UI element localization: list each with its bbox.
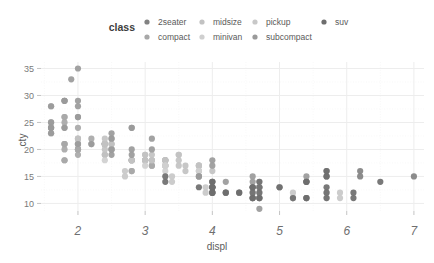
y-tick-label: 35 [24, 64, 34, 74]
scatter-point [350, 195, 356, 201]
scatter-point [256, 206, 262, 212]
scatter-point [350, 190, 356, 196]
scatter-point [75, 98, 81, 104]
scatter-point [149, 152, 155, 158]
legend-label-2seater[interactable]: 2seater [158, 17, 187, 27]
scatter-point [250, 195, 256, 201]
scatter-point [48, 103, 54, 109]
scatter-point [75, 125, 81, 131]
legend-label-subcompact[interactable]: subcompact [266, 32, 312, 42]
scatter-point [337, 195, 343, 201]
scatter-point [108, 130, 114, 136]
scatter-point [377, 179, 383, 185]
legend-marker-2seater[interactable] [144, 19, 149, 24]
scatter-point [357, 168, 363, 174]
legend-label-minivan[interactable]: minivan [213, 32, 243, 42]
scatter-point [88, 141, 94, 147]
scatter-point [223, 190, 229, 196]
scatter-point [149, 146, 155, 152]
scatter-point [61, 125, 67, 131]
scatter-point [142, 163, 148, 169]
legend-marker-compact[interactable] [144, 34, 149, 39]
scatter-point [357, 173, 363, 179]
scatter-point [303, 195, 309, 201]
scatter-point [75, 136, 81, 142]
scatter-point [203, 190, 209, 196]
scatter-point [75, 141, 81, 147]
legend-marker-pickup[interactable] [252, 19, 257, 24]
scatter-point [75, 152, 81, 158]
scatter-point [129, 157, 135, 163]
legend-marker-midsize[interactable] [199, 19, 204, 24]
scatter-point [256, 179, 262, 185]
scatter-point [61, 141, 67, 147]
scatter-point [48, 125, 54, 131]
scatter-point [61, 146, 67, 152]
scatter-point [323, 168, 329, 174]
scatter-point [129, 125, 135, 131]
scatter-point [303, 179, 309, 185]
scatter-point [162, 157, 168, 163]
plot-panel-background [41, 62, 424, 211]
scatter-point [337, 190, 343, 196]
scatter-point [196, 168, 202, 174]
scatter-point [75, 103, 81, 109]
scatter-point [176, 157, 182, 163]
scatter-point [323, 173, 329, 179]
scatter-point [142, 157, 148, 163]
x-tick-label: 4 [209, 224, 216, 238]
scatter-point [209, 179, 215, 185]
scatter-point [182, 168, 188, 174]
scatter-point [176, 152, 182, 158]
scatter-point [323, 195, 329, 201]
scatter-point [149, 163, 155, 169]
legend-label-suv[interactable]: suv [335, 17, 349, 27]
scatter-point [48, 119, 54, 125]
scatter-point [209, 157, 215, 163]
scatter-point [102, 152, 108, 158]
scatter-point [108, 136, 114, 142]
scatter-point [323, 184, 329, 190]
scatter-point [250, 190, 256, 196]
x-axis-title: displ [207, 241, 228, 252]
scatter-point [61, 157, 67, 163]
scatter-point [182, 163, 188, 169]
scatter-point [209, 190, 215, 196]
x-tick-label: 5 [276, 224, 283, 238]
legend-marker-minivan[interactable] [199, 34, 204, 39]
scatter-point [209, 168, 215, 174]
legend-label-midsize[interactable]: midsize [213, 17, 242, 27]
legend-label-compact[interactable]: compact [158, 32, 191, 42]
scatter-point [236, 190, 242, 196]
scatter-point [223, 179, 229, 185]
scatter-point [196, 163, 202, 169]
scatter-point [169, 179, 175, 185]
y-axis-title: cty [17, 134, 28, 147]
scatter-point [129, 146, 135, 152]
legend-label-pickup[interactable]: pickup [266, 17, 291, 27]
scatter-point [256, 195, 262, 201]
scatter-point [176, 163, 182, 169]
scatter-point [75, 146, 81, 152]
scatter-point [129, 152, 135, 158]
scatter-point [129, 168, 135, 174]
scatter-point [250, 179, 256, 185]
scatter-point [196, 184, 202, 190]
scatter-point [209, 163, 215, 169]
scatter-point [102, 146, 108, 152]
scatter-point [290, 190, 296, 196]
x-tick-label: 6 [343, 224, 350, 238]
legend-marker-subcompact[interactable] [252, 34, 257, 39]
scatter-point [48, 130, 54, 136]
y-tick-label: 15 [24, 172, 34, 182]
scatter-point [276, 184, 282, 190]
scatter-point [203, 184, 209, 190]
scatter-point [122, 173, 128, 179]
legend-title: class [109, 21, 135, 33]
scatter-point [250, 184, 256, 190]
scatter-point [122, 168, 128, 174]
legend-marker-suv[interactable] [321, 19, 326, 24]
scatter-point [102, 141, 108, 147]
scatter-plot-figure: class2seatercompactmidsizeminivanpickups… [0, 0, 434, 263]
scatter-point [323, 190, 329, 196]
